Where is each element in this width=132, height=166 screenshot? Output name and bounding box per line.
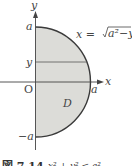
curve-equation-lhs: x = [76,28,95,41]
figure-number: 図 7.14 [2,159,44,166]
region-diagram: y x O a y −a a D x = a²−y² 図 7.14 x² + y… [0,0,132,166]
right-a-label: a [91,83,98,96]
x-axis-label: x [105,75,112,88]
region-d-label: D [62,97,72,110]
curve-equation-radicand: a²−y² [108,27,132,40]
y-axis-label: y [30,0,38,12]
level-y-label: y [25,56,33,69]
x-axis-arrow-icon [97,80,104,85]
bottom-a-label: −a [18,130,34,143]
origin-label: O [24,83,33,96]
figure-caption: x² + y² ≤ a² [48,161,101,166]
y-axis-arrow-icon [33,11,38,18]
top-a-label: a [26,20,33,33]
